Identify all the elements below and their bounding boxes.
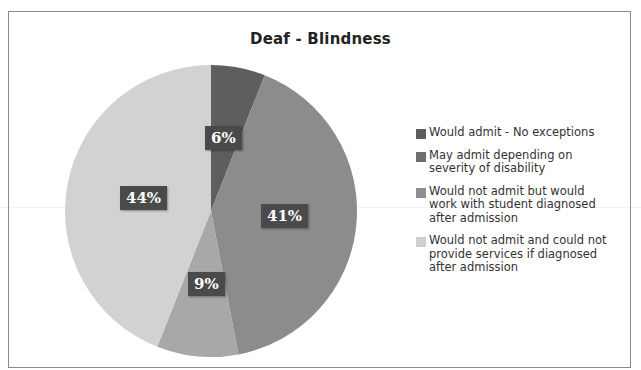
chart-legend: Would admit - No exceptions May admit de… [416, 126, 616, 284]
legend-swatch-icon [416, 129, 426, 139]
legend-swatch-icon [416, 152, 426, 162]
slice-label-would-admit: 6% [205, 126, 242, 150]
slice-label-not-admit-work-with: 9% [188, 272, 225, 296]
slice-label-may-admit: 41% [261, 204, 308, 228]
legend-item-would-admit: Would admit - No exceptions [416, 126, 616, 140]
legend-swatch-icon [416, 188, 426, 198]
legend-swatch-icon [416, 237, 426, 247]
legend-item-not-admit-no-services: Would not admit and could not provide se… [416, 234, 616, 275]
legend-item-may-admit: May admit depending on severity of disab… [416, 149, 616, 176]
legend-item-not-admit-work-with: Would not admit but would work with stud… [416, 185, 616, 226]
slice-label-not-admit-no-services: 44% [120, 186, 167, 210]
